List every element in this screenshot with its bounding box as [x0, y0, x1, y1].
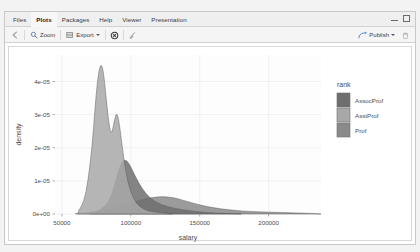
tab-viewer[interactable]: Viewer: [117, 12, 146, 27]
svg-text:density: density: [15, 123, 23, 146]
svg-text:4e-05: 4e-05: [34, 78, 50, 85]
tab-packages[interactable]: Packages: [57, 12, 95, 27]
svg-text:0e+00: 0e+00: [33, 210, 51, 217]
zoom-button[interactable]: Zoom: [29, 31, 56, 39]
svg-text:AsstProf: AsstProf: [355, 112, 379, 119]
toolbar-separator-3: [105, 30, 106, 40]
window-controls: [390, 14, 411, 23]
remove-plot-icon[interactable]: [110, 31, 119, 40]
tab-help[interactable]: Help: [94, 12, 117, 27]
toolbar-separator-2: [60, 30, 61, 40]
plots-toolbar: Zoom Export: [5, 27, 415, 43]
toolbar-separator: [24, 30, 25, 40]
toolbar-right-group: Publish: [357, 27, 410, 43]
plot-surface: 0e+001e-052e-053e-054e-05500001000001500…: [5, 43, 415, 244]
plot-card: 0e+001e-052e-053e-054e-05500001000001500…: [8, 46, 412, 241]
zoom-label: Zoom: [40, 32, 55, 38]
chevron-down-icon: [96, 34, 100, 36]
broom-icon[interactable]: [128, 31, 137, 40]
tab-presentation[interactable]: Presentation: [146, 12, 191, 27]
tab-files[interactable]: Files: [8, 12, 31, 27]
tab-plots[interactable]: Plots: [31, 12, 56, 27]
density-plot: 0e+001e-052e-053e-054e-05500001000001500…: [9, 47, 413, 244]
publish-chevron-down-icon: [391, 34, 395, 36]
svg-text:1e-05: 1e-05: [34, 177, 50, 184]
svg-text:100000: 100000: [120, 219, 141, 226]
export-icon: [66, 31, 74, 39]
svg-text:50000: 50000: [53, 219, 71, 226]
rstudio-plots-pane: Files Plots Packages Help Viewer Present…: [0, 0, 420, 252]
publish-icon: [358, 31, 367, 40]
pane-tab-strip: Files Plots Packages Help Viewer Present…: [5, 12, 415, 27]
publish-button[interactable]: Publish: [357, 31, 396, 40]
minimize-icon[interactable]: [390, 14, 399, 23]
maximize-icon[interactable]: [402, 14, 411, 23]
svg-text:rank: rank: [337, 81, 351, 88]
svg-text:2e-05: 2e-05: [34, 144, 50, 151]
svg-text:Prof: Prof: [355, 127, 367, 134]
svg-text:150000: 150000: [189, 219, 210, 226]
publish-label: Publish: [369, 32, 389, 38]
svg-text:AssocProf: AssocProf: [355, 97, 383, 104]
back-arrow-icon[interactable]: [10, 30, 20, 40]
toolbar-separator-4: [123, 30, 124, 40]
pane-tabs: Files Plots Packages Help Viewer Present…: [8, 12, 192, 27]
svg-text:200000: 200000: [258, 219, 279, 226]
export-label: Export: [76, 32, 93, 38]
export-button[interactable]: Export: [65, 31, 100, 39]
magnifier-icon: [30, 31, 38, 39]
toolbar-left-group: Zoom Export: [10, 27, 137, 43]
plots-pane-window: Files Plots Packages Help Viewer Present…: [4, 11, 416, 245]
trash-icon[interactable]: [401, 31, 410, 40]
svg-text:salary: salary: [179, 234, 198, 242]
svg-text:3e-05: 3e-05: [34, 111, 50, 118]
